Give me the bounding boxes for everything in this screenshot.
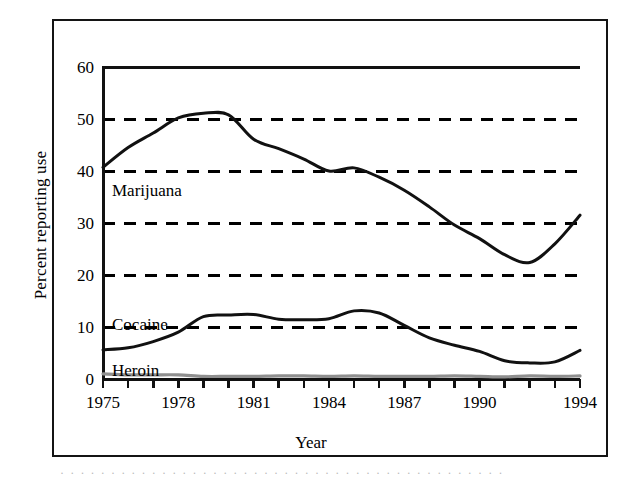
line-chart: 0102030405060 19751978198119841987199019…: [0, 0, 622, 478]
x-tick-label-1981: 1981: [237, 393, 271, 412]
series-label-heroin: Heroin: [112, 361, 160, 380]
y-tick-label-20: 20: [77, 266, 94, 285]
gridlines-group: [103, 119, 580, 327]
y-tick-labels-group: 0102030405060: [77, 58, 94, 389]
y-tick-label-10: 10: [77, 318, 94, 337]
x-tick-label-1984: 1984: [312, 393, 347, 412]
scan-caption-remnant: · · · · · · · · · · · · · · · · · · · · …: [60, 466, 612, 477]
y-tick-label-30: 30: [77, 214, 94, 233]
x-tick-label-1978: 1978: [161, 393, 195, 412]
series-line-heroin: [103, 374, 580, 377]
series-paths-group: [103, 112, 580, 377]
y-tick-label-0: 0: [86, 370, 95, 389]
x-tick-label-1975: 1975: [86, 393, 120, 412]
y-tick-label-50: 50: [77, 110, 94, 129]
series-inline-labels-group: MarijuanaCocaineHeroin: [112, 181, 182, 380]
x-tick-label-1987: 1987: [387, 393, 422, 412]
series-label-marijuana: Marijuana: [112, 181, 182, 200]
figure-root: Percent reporting use Year 0102030405060…: [0, 0, 622, 478]
x-tick-label-1994: 1994: [563, 393, 598, 412]
y-tick-label-60: 60: [77, 58, 94, 77]
y-tick-label-40: 40: [77, 162, 94, 181]
x-tick-labels-group: 1975197819811984198719901994: [86, 393, 598, 412]
series-label-cocaine: Cocaine: [112, 315, 168, 334]
x-tick-label-1990: 1990: [463, 393, 497, 412]
series-line-cocaine: [103, 310, 580, 363]
